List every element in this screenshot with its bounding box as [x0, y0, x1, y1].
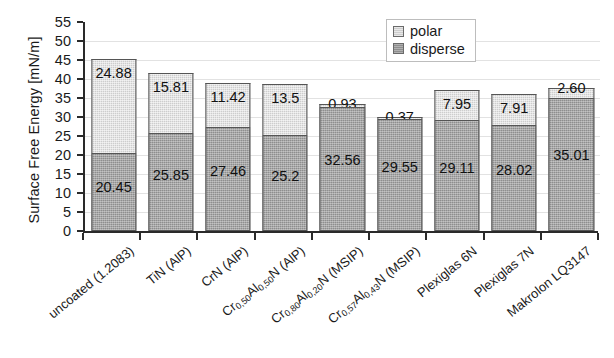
stacked-bar[interactable]: 7.9529.11: [434, 90, 479, 231]
legend-label-disperse: disperse: [410, 42, 465, 57]
legend: polar disperse: [386, 19, 476, 62]
y-axis-tick-label: 25: [37, 129, 71, 144]
stacked-bar[interactable]: 0.3729.55: [377, 117, 422, 231]
x-axis-tick: [82, 233, 84, 240]
bar-segment-disperse[interactable]: 29.11: [434, 120, 479, 231]
x-axis-tick: [597, 233, 599, 240]
bar-segment-polar[interactable]: 2.60: [549, 88, 594, 98]
bar-value-label-disperse: 35.01: [553, 148, 589, 163]
bar-value-label-disperse: 32.56: [324, 153, 360, 168]
stacked-bar[interactable]: 24.8820.45: [91, 59, 136, 231]
x-axis-tick: [139, 233, 141, 240]
y-axis-tick-label: 55: [37, 15, 71, 30]
y-axis-tick-label: 5: [37, 205, 71, 220]
bar-segment-polar[interactable]: 13.5: [263, 84, 308, 135]
bar-value-label-disperse: 27.46: [210, 164, 246, 179]
y-axis-tick-label: 10: [37, 186, 71, 201]
stacked-bar[interactable]: 2.6035.01: [549, 88, 594, 231]
x-axis-category-label: Plexiglas 6N: [415, 244, 479, 300]
polar-swatch-icon: [393, 26, 404, 37]
stacked-bar[interactable]: 15.8125.85: [148, 73, 193, 231]
bar-slot: 24.8820.45: [85, 22, 142, 231]
bar-value-label-polar: 2.60: [557, 81, 585, 96]
bar-segment-disperse[interactable]: 25.85: [148, 133, 193, 231]
x-axis-tick: [254, 233, 256, 240]
y-axis-tick-label: 50: [37, 34, 71, 49]
bar-segment-disperse[interactable]: 28.02: [492, 125, 537, 231]
bar-value-label-polar: 24.88: [95, 66, 131, 81]
x-axis-tick: [311, 233, 313, 240]
bar-value-label-polar: 7.95: [443, 97, 471, 112]
bar-segment-disperse[interactable]: 25.2: [263, 135, 308, 231]
x-axis-category-label: CrN (AlP): [199, 244, 250, 289]
bar-slot: 11.4227.46: [199, 22, 256, 231]
bar-segment-disperse[interactable]: 32.56: [320, 107, 365, 231]
disperse-swatch-icon: [393, 43, 404, 54]
bar-slot: 2.6035.01: [543, 22, 600, 231]
bar-segment-disperse[interactable]: 20.45: [91, 153, 136, 231]
bar-slot: 13.525.2: [257, 22, 314, 231]
bar-value-label-disperse: 29.55: [382, 160, 418, 175]
y-axis-tick-label: 45: [37, 53, 71, 68]
x-axis-tick: [540, 233, 542, 240]
bar-segment-disperse[interactable]: 27.46: [205, 127, 250, 231]
y-axis-tick-label: 0: [37, 224, 71, 239]
bar-segment-polar[interactable]: 7.95: [434, 90, 479, 120]
x-axis-tick: [368, 233, 370, 240]
x-axis-tick: [425, 233, 427, 240]
bar-value-label-polar: 7.91: [500, 101, 528, 116]
bar-segment-disperse[interactable]: 35.01: [549, 98, 594, 231]
bar-value-label-polar: 11.42: [210, 90, 245, 105]
x-axis-tick: [196, 233, 198, 240]
x-axis-tick: [483, 233, 485, 240]
legend-item-polar: polar: [393, 24, 465, 39]
stacked-bar[interactable]: 11.4227.46: [205, 83, 250, 231]
bar-value-label-polar: 13.5: [271, 91, 299, 106]
x-axis-category-label: TiN (AlP): [144, 244, 193, 287]
bar-value-label-disperse: 20.45: [95, 180, 131, 195]
bar-value-label-polar: 15.81: [153, 80, 189, 95]
x-axis-category-label: uncoated (1.2083): [46, 244, 136, 321]
stacked-bar[interactable]: 7.9128.02: [492, 94, 537, 231]
bar-slot: 7.9128.02: [486, 22, 543, 231]
bar-segment-polar[interactable]: 15.81: [148, 73, 193, 133]
bar-segment-polar[interactable]: 24.88: [91, 59, 136, 154]
bar-segment-disperse[interactable]: 29.55: [377, 119, 422, 231]
y-axis-tick-label: 20: [37, 148, 71, 163]
bar-value-label-disperse: 29.11: [439, 161, 474, 176]
bar-slot: 0.9332.56: [314, 22, 371, 231]
bar-value-label-disperse: 25.2: [271, 169, 299, 184]
bar-value-label-disperse: 25.85: [153, 168, 189, 183]
bar-segment-polar[interactable]: 11.42: [205, 83, 250, 126]
plot-area: 24.8820.4515.8125.8511.4227.4613.525.20.…: [83, 22, 598, 233]
bar-slot: 15.8125.85: [142, 22, 199, 231]
stacked-bar[interactable]: 0.9332.56: [320, 104, 365, 231]
bar-series-group: 24.8820.4515.8125.8511.4227.4613.525.20.…: [85, 22, 600, 231]
legend-item-disperse: disperse: [393, 42, 465, 57]
legend-label-polar: polar: [410, 24, 442, 39]
bar-value-label-disperse: 28.02: [496, 163, 532, 178]
stacked-bar[interactable]: 13.525.2: [263, 84, 308, 231]
bar-segment-polar[interactable]: 7.91: [492, 94, 537, 124]
y-axis-tick-label: 30: [37, 110, 71, 125]
chart-figure: Surface Free Energy [mN/m] 5550454035302…: [0, 0, 614, 358]
y-axis-tick-label: 35: [37, 91, 71, 106]
y-axis-tick-label: 15: [37, 167, 71, 182]
y-axis-tick-label: 40: [37, 72, 71, 87]
